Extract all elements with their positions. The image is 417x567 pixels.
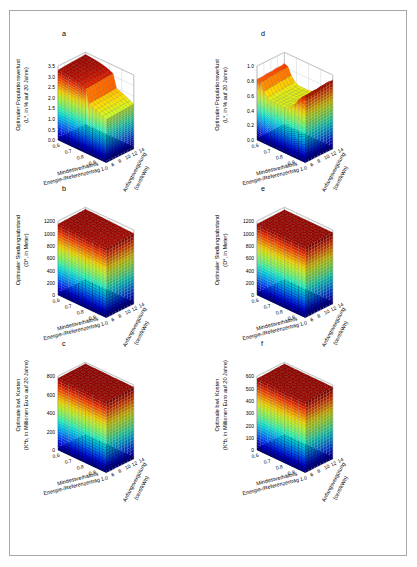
svg-text:12: 12 [330,149,338,157]
svg-text:3.0: 3.0 [48,74,55,80]
panel-e: 0200400600800100012000.60.70.80.91.06810… [205,169,403,347]
svg-text:0.7: 0.7 [64,147,72,155]
svg-text:200: 200 [246,423,255,429]
svg-text:8: 8 [117,157,122,164]
svg-text:0.8: 0.8 [275,153,283,161]
svg-text:(D*, in Meter): (D*, in Meter) [222,233,228,266]
svg-text:0.7: 0.7 [263,147,271,155]
svg-text:0.8: 0.8 [76,153,84,161]
svg-text:600: 600 [246,373,255,379]
svg-text:0.5: 0.5 [48,127,55,133]
svg-text:0.6: 0.6 [52,452,60,460]
panel-letter: c [62,339,66,348]
svg-text:800: 800 [47,373,56,379]
svg-text:800: 800 [246,243,255,249]
svg-text:Optimaler Populationsverlust: Optimaler Populationsverlust [15,59,21,131]
svg-text:6: 6 [110,316,115,323]
svg-text:8: 8 [316,467,321,474]
svg-text:10: 10 [323,463,331,471]
svg-text:300: 300 [246,410,255,416]
svg-text:0.6: 0.6 [52,297,60,305]
svg-text:6: 6 [309,161,314,168]
svg-text:1200: 1200 [44,218,55,224]
svg-text:200: 200 [47,429,56,435]
panel-a: 0.00.51.01.52.02.53.03.50.60.70.80.91.06… [6,14,204,192]
svg-text:1.0: 1.0 [48,116,55,122]
svg-text:6: 6 [110,161,115,168]
panel-c: 02004006008000.60.70.80.91.068101214Mind… [6,324,204,502]
svg-text:1.0: 1.0 [247,63,254,69]
svg-text:0.8: 0.8 [275,463,283,471]
svg-text:12: 12 [131,149,139,157]
svg-text:10: 10 [323,308,331,316]
svg-text:500: 500 [246,386,255,392]
svg-text:8: 8 [117,312,122,319]
svg-text:0.8: 0.8 [275,308,283,316]
svg-text:1000: 1000 [44,231,55,237]
panel-letter: f [261,339,263,348]
svg-text:12: 12 [330,304,338,312]
svg-text:800: 800 [47,243,56,249]
svg-text:(K*b, in Millionen Euro auf 20: (K*b, in Millionen Euro auf 20 Jahre) [222,360,228,450]
svg-text:Optimaler Populationsverlust: Optimaler Populationsverlust [214,59,220,131]
panel-d: 0.00.20.40.60.81.00.60.70.80.91.06810121… [205,14,403,192]
svg-text:1.5: 1.5 [48,105,55,111]
svg-text:600: 600 [47,255,56,261]
svg-text:0.7: 0.7 [263,457,271,465]
svg-text:2.0: 2.0 [48,95,55,101]
panel-letter: a [62,29,66,38]
svg-text:6: 6 [309,471,314,478]
svg-text:12: 12 [131,459,139,467]
svg-text:100: 100 [246,435,255,441]
svg-text:0.8: 0.8 [76,308,84,316]
svg-text:0.6: 0.6 [251,142,259,150]
svg-text:0.6: 0.6 [52,142,60,150]
svg-text:8: 8 [316,312,321,319]
panel-letter: d [261,29,265,38]
svg-text:(D*, in Meter): (D*, in Meter) [23,233,29,266]
svg-text:(L*, in % auf 20 Jahre): (L*, in % auf 20 Jahre) [222,67,228,123]
panel-letter: e [261,184,265,193]
svg-text:1000: 1000 [243,231,254,237]
svg-text:10: 10 [124,308,132,316]
svg-text:12: 12 [330,459,338,467]
svg-text:1.0: 1.0 [100,474,108,482]
svg-text:0.8: 0.8 [247,78,254,84]
svg-text:200: 200 [47,280,56,286]
svg-text:0.4: 0.4 [247,108,254,114]
svg-text:Optimale bwl. Kosten: Optimale bwl. Kosten [15,379,21,432]
svg-text:0.7: 0.7 [263,302,271,310]
svg-text:8: 8 [117,467,122,474]
svg-text:400: 400 [47,268,56,274]
svg-text:10: 10 [124,463,132,471]
svg-text:0.6: 0.6 [251,297,259,305]
panel-b: 0200400600800100012000.60.70.80.91.06810… [6,169,204,347]
svg-text:0.8: 0.8 [76,463,84,471]
svg-text:1.0: 1.0 [299,474,307,482]
svg-text:400: 400 [47,410,56,416]
svg-text:3.5: 3.5 [48,63,55,69]
svg-text:600: 600 [246,255,255,261]
svg-text:0.7: 0.7 [64,302,72,310]
svg-text:12: 12 [131,304,139,312]
panel-letter: b [62,184,66,193]
svg-text:2.5: 2.5 [48,84,55,90]
svg-text:Optimale bwl. Kosten: Optimale bwl. Kosten [214,379,220,432]
panel-f: 01002003004005006000.60.70.80.91.0681012… [205,324,403,502]
figure-root: 0.00.51.01.52.02.53.03.50.60.70.80.91.06… [0,0,417,567]
svg-text:Optimaler Siedlungsabstand: Optimaler Siedlungsabstand [15,215,21,285]
svg-text:6: 6 [110,471,115,478]
svg-text:0.7: 0.7 [64,457,72,465]
svg-text:8: 8 [316,157,321,164]
svg-text:0.6: 0.6 [247,93,254,99]
svg-text:10: 10 [124,153,132,161]
svg-text:(K*b, in Millionen Euro auf 20: (K*b, in Millionen Euro auf 20 Jahre) [23,360,29,450]
svg-text:0.6: 0.6 [251,452,259,460]
svg-text:1200: 1200 [243,218,254,224]
svg-text:600: 600 [47,392,56,398]
svg-text:400: 400 [246,398,255,404]
svg-text:0.2: 0.2 [247,122,254,128]
svg-text:400: 400 [246,268,255,274]
svg-text:Optimaler Siedlungsabstand: Optimaler Siedlungsabstand [214,215,220,285]
svg-text:6: 6 [309,316,314,323]
